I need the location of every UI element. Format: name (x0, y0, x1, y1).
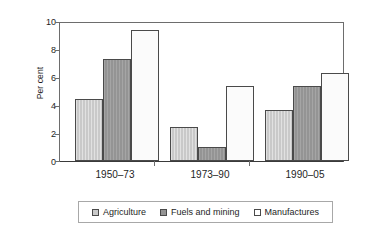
legend-entry-agriculture: Agriculture (92, 207, 146, 217)
y-tick-label-4: 4 (32, 102, 56, 111)
bar-chart-figure: Per cent 10 8 6 4 2 0 1950–73 1973–90 19… (0, 0, 377, 235)
bar-fuels-and-mining-1973-90 (198, 147, 226, 161)
bar-manufactures-1950-73 (131, 30, 159, 161)
y-tick-label-8: 8 (32, 46, 56, 55)
bar-agriculture-1973-90 (170, 127, 198, 162)
y-axis-title-text: Per cent (35, 67, 45, 99)
y-tick-mark-2 (55, 134, 60, 135)
y-tick-mark-4 (55, 106, 60, 107)
legend-entry-fuels-and-mining: Fuels and mining (160, 207, 240, 217)
bar-agriculture-1990-05 (265, 110, 293, 161)
legend-swatch-fuels-and-mining-icon (160, 209, 167, 216)
y-tick-label-6: 6 (32, 74, 56, 83)
bar-agriculture-1950-73 (75, 99, 103, 161)
legend-label-agriculture: Agriculture (103, 207, 146, 217)
y-tick-mark-10 (55, 22, 60, 23)
plot-area (59, 22, 344, 162)
y-tick-label-0: 0 (32, 158, 56, 167)
legend: Agriculture Fuels and mining Manufacture… (78, 201, 333, 223)
y-tick-mark-6 (55, 78, 60, 79)
x-tick-mark-2 (249, 161, 250, 166)
y-tick-mark-0 (55, 161, 60, 162)
x-category-label-1990-05: 1990–05 (265, 170, 345, 180)
legend-swatch-manufactures-icon (254, 209, 261, 216)
legend-entry-manufactures: Manufactures (254, 207, 320, 217)
x-category-label-1950-73: 1950–73 (75, 170, 155, 180)
legend-label-manufactures: Manufactures (265, 207, 320, 217)
bar-manufactures-1973-90 (226, 86, 254, 161)
legend-label-fuels-and-mining: Fuels and mining (171, 207, 240, 217)
bar-fuels-and-mining-1950-73 (103, 59, 131, 161)
y-tick-label-2: 2 (32, 130, 56, 139)
y-tick-label-10: 10 (32, 18, 56, 27)
legend-swatch-agriculture-icon (92, 209, 99, 216)
bar-fuels-and-mining-1990-05 (293, 86, 321, 161)
x-category-label-1973-90: 1973–90 (170, 170, 250, 180)
bar-manufactures-1990-05 (321, 73, 349, 161)
x-tick-mark-1 (154, 161, 155, 166)
y-tick-mark-8 (55, 50, 60, 51)
